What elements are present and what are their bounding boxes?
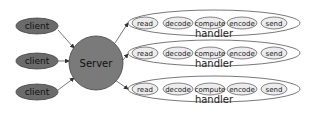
stage-read: read (137, 20, 153, 28)
stage-read: read (137, 50, 153, 58)
stage-encode: encode (229, 86, 255, 94)
handler-label: handler (195, 94, 234, 105)
stage-decode: decode (165, 50, 191, 58)
stage-read: read (137, 86, 153, 94)
client-label: client (25, 87, 50, 97)
handler-group: read decode compute encode send handler (128, 76, 300, 105)
server-label: Server (80, 58, 114, 69)
client-node: client (16, 84, 58, 100)
handler-label: handler (195, 58, 234, 69)
stage-compute: compute (195, 86, 226, 94)
architecture-diagram: client client client Server read decode … (0, 0, 314, 115)
stage-send: send (266, 20, 283, 28)
client-label: client (25, 21, 50, 31)
server-node: Server (69, 36, 123, 90)
handler-group: read decode compute encode send handler (128, 10, 300, 39)
handler-group: read decode compute encode send handler (128, 40, 300, 69)
client-label: client (25, 56, 50, 66)
stage-send: send (266, 50, 283, 58)
stage-encode: encode (229, 20, 255, 28)
stage-decode: decode (165, 86, 191, 94)
client-node: client (16, 53, 58, 69)
stage-encode: encode (229, 50, 255, 58)
stage-compute: compute (195, 50, 226, 58)
handler-label: handler (195, 28, 234, 39)
stage-send: send (266, 86, 283, 94)
stage-decode: decode (165, 20, 191, 28)
stage-compute: compute (195, 20, 226, 28)
client-node: client (16, 18, 58, 34)
